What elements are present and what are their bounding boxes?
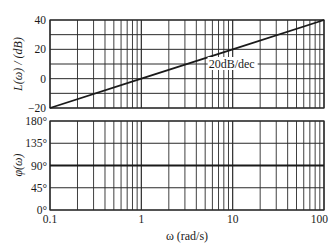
slope-annotation: 20dB/dec: [208, 57, 258, 71]
phase-y-tick-label: 45°: [31, 182, 48, 194]
magnitude-y-axis-label: L(ω) / (dB): [11, 37, 25, 92]
x-tick-label: 1: [138, 213, 144, 225]
x-tick-label: 100: [311, 213, 329, 225]
magnitude-y-ticks: −2002040: [28, 14, 46, 114]
phase-grid: [50, 121, 324, 210]
phase-y-tick-label: 90°: [31, 160, 48, 172]
phase-y-tick-label: 180°: [25, 115, 47, 127]
x-tick-label: 10: [227, 213, 239, 225]
x-axis-ticks: 0.1110100: [43, 213, 328, 225]
magnitude-y-tick-label: 20: [35, 43, 47, 55]
magnitude-y-tick-label: 40: [35, 14, 47, 26]
x-tick-label: 0.1: [43, 213, 58, 225]
phase-y-tick-label: 135°: [25, 137, 47, 149]
magnitude-y-tick-label: 0: [40, 73, 46, 85]
bode-plot: −2002040 0°45°90°135°180° 0.1110100 20dB…: [0, 0, 334, 247]
slope-annotation-text: 20dB/dec: [209, 57, 255, 71]
phase-y-axis-label: φ(ω): [11, 153, 25, 176]
phase-y-ticks: 0°45°90°135°180°: [25, 115, 47, 216]
magnitude-y-tick-label: −20: [28, 102, 46, 114]
x-axis-label: ω (rad/s): [166, 229, 208, 243]
